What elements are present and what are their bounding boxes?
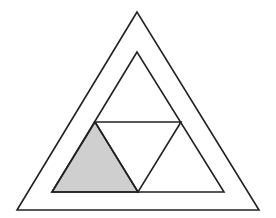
nested-triangles-diagram [0, 0, 276, 218]
outer-triangle [17, 12, 259, 210]
